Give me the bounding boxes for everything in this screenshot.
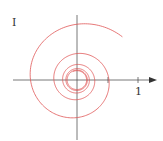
y-axis-label: I bbox=[12, 17, 16, 28]
x-tick-label-1: 1 bbox=[135, 86, 142, 97]
x-axis-arrow-icon bbox=[149, 77, 157, 83]
spiral-plot bbox=[0, 0, 163, 141]
spiral-curve bbox=[30, 24, 122, 118]
